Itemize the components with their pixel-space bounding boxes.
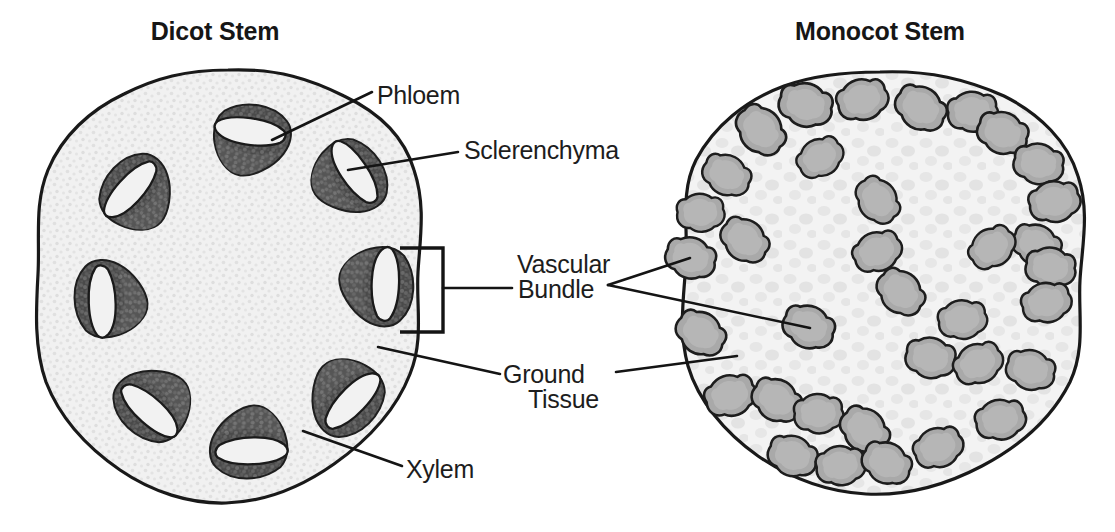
label-sclerenchyma: Sclerenchyma	[464, 138, 619, 163]
page-title-monocot: Monocot Stem	[665, 17, 1095, 46]
label-vascular-bundle-line2: Bundle	[518, 277, 610, 302]
label-ground-tissue: Ground Tissue	[503, 362, 599, 412]
monocot-stem-drawing	[661, 71, 1085, 494]
label-phloem: Phloem	[377, 83, 460, 108]
label-vascular-bundle: Vascular Bundle	[517, 252, 610, 302]
label-ground-tissue-line2: Tissue	[528, 387, 599, 412]
dicot-stem-drawing	[36, 70, 421, 503]
label-xylem: Xylem	[406, 457, 474, 482]
page-title-dicot: Dicot Stem	[0, 17, 430, 46]
label-ground-tissue-line1: Ground	[503, 362, 599, 387]
stem-cross-section-figure: Dicot Stem Monocot Stem Phloem Sclerench…	[0, 0, 1115, 532]
label-vascular-bundle-line1: Vascular	[517, 252, 610, 277]
